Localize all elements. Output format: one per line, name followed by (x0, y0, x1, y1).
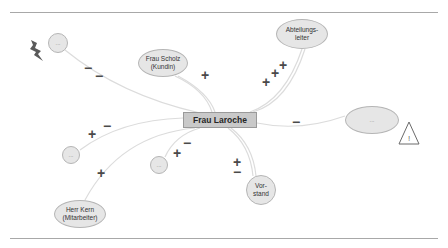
plus-sign: + (171, 148, 183, 158)
node-herr-kern[interactable]: Herr Kern (Mitarbeiter) (54, 200, 106, 228)
lightning-icon (28, 40, 44, 62)
plus-sign: + (86, 129, 98, 139)
node-unknown-left[interactable]: ... (62, 146, 80, 164)
node-abteilungsleiter[interactable]: Abteilungs- leiter (276, 19, 328, 49)
node-label-line2: leiter (286, 34, 319, 42)
minus-sign: − (101, 121, 113, 131)
node-label-line2: (Mitarbeiter) (62, 214, 97, 222)
plus-sign: + (95, 168, 107, 178)
svg-text:!: ! (408, 134, 410, 143)
node-label-line1: Abteilungs- (286, 26, 319, 34)
minus-sign: − (181, 138, 193, 148)
node-unknown-right[interactable]: ... (345, 106, 399, 134)
center-node-label: Frau Laroche (193, 116, 247, 124)
node-label: ... (55, 39, 60, 47)
node-label: ... (369, 116, 374, 124)
plus-sign: + (199, 70, 211, 80)
node-label: ... (68, 151, 73, 159)
node-vorstand[interactable]: Vor- stand (246, 175, 276, 205)
minus-sign: − (93, 71, 105, 81)
minus-sign: − (231, 167, 243, 177)
node-unknown-top-left[interactable]: ... (48, 33, 68, 53)
node-label-line1: Herr Kern (62, 206, 97, 214)
plus-sign: + (277, 60, 289, 70)
warning-triangle-icon: ! (397, 120, 421, 146)
node-label: ... (156, 161, 161, 169)
node-label-line1: Vor- (253, 182, 269, 190)
center-node-frau-laroche[interactable]: Frau Laroche (183, 112, 257, 128)
node-frau-scholz[interactable]: Frau Scholz (Kundin) (138, 49, 188, 77)
node-label-line2: (Kundin) (146, 63, 181, 71)
node-unknown-bottom[interactable]: ... (150, 156, 168, 174)
node-label-line1: Frau Scholz (146, 55, 181, 63)
minus-sign: − (290, 117, 302, 127)
node-label-line2: stand (253, 190, 269, 198)
